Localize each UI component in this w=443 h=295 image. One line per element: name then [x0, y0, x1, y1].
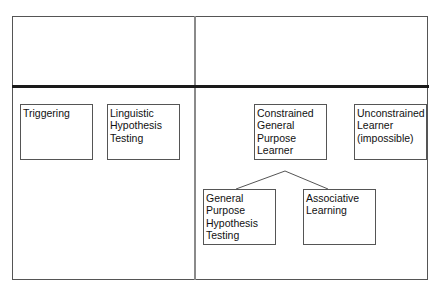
box-label: General Purpose Hypothesis Testing [206, 192, 258, 241]
vertical-divider [194, 16, 196, 280]
box-constrained-general-purpose-learner: Constrained General Purpose Learner [254, 104, 327, 160]
box-label: Triggering [23, 107, 70, 119]
box-linguistic-hypothesis-testing: Linguistic Hypothesis Testing [107, 104, 180, 160]
box-label: Constrained General Purpose Learner [257, 107, 314, 156]
box-general-purpose-hypothesis-testing: General Purpose Hypothesis Testing [203, 189, 276, 245]
box-label: Unconstrained Learner (impossible) [357, 107, 425, 144]
box-unconstrained-learner: Unconstrained Learner (impossible) [354, 104, 427, 160]
box-triggering: Triggering [20, 104, 93, 160]
horizontal-divider [12, 85, 429, 88]
box-label: Associative Learning [306, 192, 359, 216]
box-label: Linguistic Hypothesis Testing [110, 107, 162, 144]
box-associative-learning: Associative Learning [303, 189, 376, 245]
